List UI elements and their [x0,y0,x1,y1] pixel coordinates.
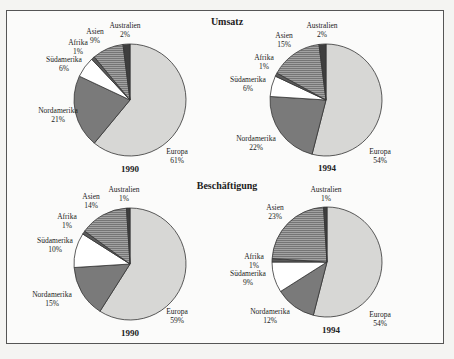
slice-label-value: 23% [268,212,282,221]
slice-label-value: 9% [243,278,253,287]
pie-chart-beschäftigung-1990: Europa59%Nordamerika15%Südamerika10%Afri… [32,185,188,338]
pie-year-label: 1990 [121,164,140,174]
slice-label-value: 22% [249,143,263,152]
slice-label-value: 15% [45,299,59,308]
slice-label-value: 54% [373,319,387,328]
slice-label-name: Afrika [244,252,264,261]
slice-label-value: 1% [73,47,83,56]
slice-label-name: Südamerika [46,55,82,64]
slice-label-value: 21% [51,115,65,124]
slice-label-name: Südamerika [230,75,266,84]
slice-label-name: Südamerika [37,236,73,245]
slice-label-name: Nordamerika [250,307,290,316]
pie-chart-umsatz-1990: Europa61%Nordamerika21%Südamerika6%Afrik… [38,21,188,174]
slice-label-value: 9% [90,36,100,45]
slice-label-value: 6% [59,64,69,73]
slice-label-value: 1% [249,261,259,270]
slice-label-name: Afrika [57,212,77,221]
slice-label-name: Nordamerika [236,134,276,143]
slice-label-name: Südamerika [230,269,266,278]
slice-label-name: Australien [108,185,139,194]
slice-label-name: Nordamerika [32,290,72,299]
slice-label-value: 1% [259,62,269,71]
slice-label-name: Australien [109,21,140,30]
slice-label-value: 54% [373,156,387,165]
slice-label-name: Afrika [68,38,88,47]
slice-label-name: Afrika [254,53,274,62]
slice-label-name: Europa [166,307,188,316]
slice-label-value: 6% [243,84,253,93]
pie-year-label: 1994 [318,163,337,173]
pie-chart-beschäftigung-1994: Europa54%Nordamerika12%Südamerika9%Afrik… [230,185,391,335]
pie-chart-umsatz-1994: Europa54%Nordamerika22%Südamerika6%Afrik… [230,21,391,173]
slice-label-value: 15% [277,40,291,49]
slice-label-name: Europa [369,310,391,319]
slice-label-name: Europa [166,147,188,156]
slice-label-value: 59% [170,316,184,325]
slice-label-name: Europa [369,147,391,156]
slice-label-name: Australien [306,21,337,30]
slice-label-value: 1% [62,221,72,230]
slice-label-name: Asien [266,203,284,212]
slice-label-value: 1% [119,194,129,203]
slice-label-value: 10% [48,245,62,254]
slice-label-name: Asien [82,192,100,201]
slice-label-value: 2% [317,30,327,39]
slice-label-name: Asien [86,27,104,36]
slice-label-value: 12% [263,316,277,325]
section-title-umsatz: Umsatz [211,16,244,27]
slice-label-name: Nordamerika [38,106,78,115]
slice-label-value: 14% [84,201,98,210]
slice-label-value: 61% [170,156,184,165]
slice-label-value: 1% [321,194,331,203]
pie-year-label: 1994 [322,325,341,335]
section-title-beschaeftigung: Beschäftigung [197,180,258,191]
slice-label-value: 2% [120,30,130,39]
slice-label-name: Asien [275,31,293,40]
pie-charts-figure: Umsatz Beschäftigung Europa61%Nordamerik… [0,0,454,359]
slice-label-name: Australien [310,185,341,194]
pie-year-label: 1990 [121,328,140,338]
